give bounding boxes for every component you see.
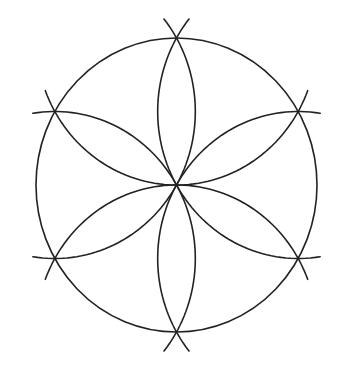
construction-group [33, 19, 320, 351]
petal-arc-upper-right [158, 19, 320, 258]
petal-arc-upper-left [33, 19, 195, 258]
petal-arc-bottom [45, 185, 307, 279]
petal-arc-top [45, 91, 307, 185]
petal-arc-lower-left [33, 112, 195, 351]
hexafoil-diagram [0, 0, 349, 371]
diagram-canvas [0, 0, 349, 371]
petal-arc-lower-right [158, 112, 320, 351]
